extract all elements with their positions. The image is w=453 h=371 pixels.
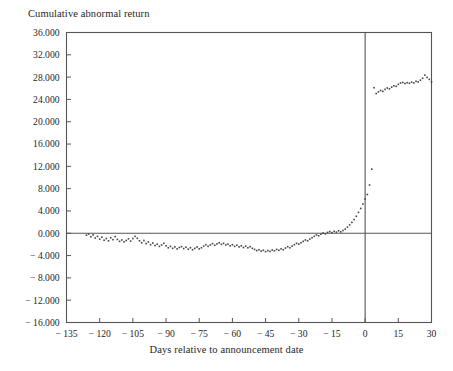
data-point (309, 238, 311, 240)
data-point (86, 234, 88, 236)
x-tick-label: − 90 (157, 328, 175, 339)
data-point (174, 246, 176, 248)
data-point (318, 235, 320, 237)
x-tick-label: − 75 (191, 328, 209, 339)
data-point (333, 231, 335, 233)
data-point (243, 247, 245, 249)
data-point (393, 85, 395, 87)
y-tick-label: 12.000 (33, 161, 60, 172)
data-point (134, 236, 136, 238)
data-point (136, 237, 138, 239)
data-point (125, 240, 127, 242)
data-point (121, 239, 123, 241)
data-point (265, 251, 267, 253)
data-point (338, 230, 340, 232)
data-point (373, 87, 375, 89)
data-point (351, 222, 353, 224)
y-tick-label: 0.000 (38, 228, 60, 239)
data-point (205, 244, 207, 246)
data-point (214, 244, 216, 246)
data-point (280, 248, 282, 250)
data-point (108, 240, 110, 242)
data-point (389, 88, 391, 90)
y-tick-label: 28.000 (33, 72, 60, 83)
data-point (221, 244, 223, 246)
data-point (371, 168, 373, 170)
data-point (391, 86, 393, 88)
data-point (225, 244, 227, 246)
data-point (294, 244, 296, 246)
data-point (152, 242, 154, 244)
data-point (249, 246, 251, 248)
data-point (97, 236, 99, 238)
data-point (218, 242, 220, 244)
data-point (316, 234, 318, 236)
data-point (114, 236, 116, 238)
data-point (159, 246, 161, 248)
x-axis-title: Days relative to announcement date (0, 344, 453, 355)
data-point (240, 245, 242, 247)
data-point (110, 237, 112, 239)
data-point (342, 230, 344, 232)
data-point (216, 243, 218, 245)
x-tick-label: 0 (363, 328, 368, 339)
data-point (92, 234, 94, 236)
data-point (409, 82, 411, 84)
data-point (132, 238, 134, 240)
data-point (331, 232, 333, 234)
data-point (258, 249, 260, 251)
data-point (167, 247, 169, 249)
data-point (426, 77, 428, 79)
data-point (340, 231, 342, 233)
data-point (329, 231, 331, 233)
data-point (103, 239, 105, 241)
data-point (209, 244, 211, 246)
data-point (181, 246, 183, 248)
data-point (117, 239, 119, 241)
data-point (380, 90, 382, 92)
x-tick-label: − 60 (224, 328, 242, 339)
data-point (161, 244, 163, 246)
data-point (274, 250, 276, 252)
data-point (417, 81, 419, 83)
data-point (252, 248, 254, 250)
data-point (123, 241, 125, 243)
data-point (402, 82, 404, 84)
y-tick-label: 20.000 (33, 116, 60, 127)
data-point (190, 247, 192, 249)
data-point (236, 244, 238, 246)
data-point (112, 239, 114, 241)
data-point (148, 241, 150, 243)
data-point (276, 249, 278, 251)
data-point (141, 242, 143, 244)
data-point (183, 248, 185, 250)
data-point (232, 244, 234, 246)
data-point (305, 239, 307, 241)
data-point (106, 238, 108, 240)
data-point (269, 251, 271, 253)
data-point (278, 249, 280, 251)
data-point (267, 250, 269, 252)
data-point (375, 93, 377, 95)
data-point (88, 233, 90, 235)
data-point (229, 245, 231, 247)
data-point (325, 233, 327, 235)
data-point (415, 81, 417, 83)
data-point (90, 236, 92, 238)
data-point (238, 246, 240, 248)
data-point (395, 86, 397, 88)
data-point (347, 226, 349, 228)
data-point (165, 245, 167, 247)
data-point (411, 81, 413, 83)
data-point (320, 233, 322, 235)
data-point (355, 215, 357, 217)
x-tick-label: − 30 (290, 328, 308, 339)
data-point (431, 81, 433, 83)
data-point (139, 240, 141, 242)
data-point (382, 91, 384, 93)
y-tick-label: − 4.000 (30, 250, 60, 261)
data-point (336, 231, 338, 233)
data-point (128, 238, 130, 240)
data-point (176, 248, 178, 250)
data-point (150, 244, 152, 246)
